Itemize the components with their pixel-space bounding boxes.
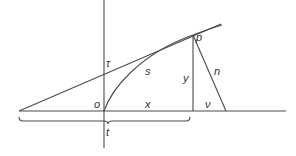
label-tau: τ — [106, 57, 111, 69]
label-nu: ν — [205, 98, 211, 110]
label-t: t — [106, 126, 110, 138]
geometry-diagram: τ s p y n o x ν t — [0, 0, 296, 156]
label-o: o — [94, 98, 100, 110]
label-s: s — [145, 65, 151, 77]
tangent-line — [19, 24, 221, 111]
label-p: p — [195, 31, 202, 43]
label-y: y — [182, 72, 190, 84]
label-n: n — [214, 65, 220, 77]
label-x: x — [144, 98, 151, 110]
